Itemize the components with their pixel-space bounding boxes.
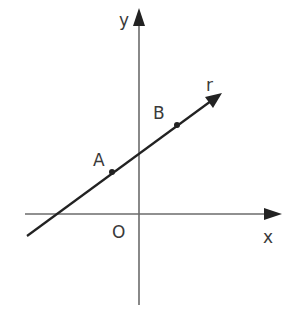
y-axis-arrow-icon (133, 8, 145, 26)
line-r-arrow-icon (205, 93, 222, 108)
x-axis-label: x (263, 227, 273, 247)
line-r-label: r (206, 75, 213, 95)
point-a (109, 169, 115, 175)
point-a-label: A (93, 150, 105, 170)
y-axis-label: y (119, 10, 129, 30)
point-b-label: B (153, 103, 165, 123)
x-axis-arrow-icon (264, 208, 282, 220)
point-b (174, 122, 180, 128)
origin-label: O (112, 222, 125, 242)
diagram-canvas: y x O r A B (0, 0, 306, 318)
coordinate-diagram: y x O r A B (0, 0, 306, 318)
